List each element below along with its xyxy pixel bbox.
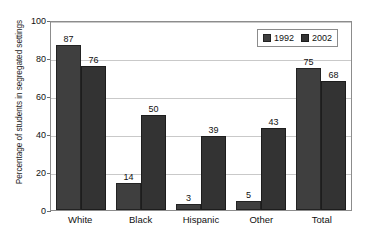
- x-axis-label-total: Total: [292, 214, 352, 225]
- bar-chart-figure: Percentage of students in segregated set…: [0, 0, 367, 247]
- plot-area: 877614503395437568: [50, 21, 352, 211]
- bar-group-other: 543: [236, 22, 286, 210]
- bar-value-label: 5: [246, 190, 251, 200]
- bar-value-label: 50: [148, 104, 158, 114]
- bar-rect[interactable]: [296, 68, 321, 211]
- bar-value-label: 39: [208, 125, 218, 135]
- bar-rect[interactable]: [261, 128, 286, 210]
- bar-value-label: 76: [88, 55, 98, 65]
- bar-black-2002[interactable]: 50: [141, 22, 166, 210]
- bar-rect[interactable]: [81, 66, 106, 210]
- y-axis-tick-label: 20: [0, 168, 46, 178]
- bar-total-1992[interactable]: 75: [296, 22, 321, 210]
- bar-value-label: 87: [63, 34, 73, 44]
- bar-value-label: 43: [268, 117, 278, 127]
- bar-rect[interactable]: [201, 136, 226, 210]
- bar-value-label: 14: [123, 172, 133, 182]
- bar-value-label: 3: [186, 193, 191, 203]
- bar-other-1992[interactable]: 5: [236, 22, 261, 210]
- bar-hispanic-2002[interactable]: 39: [201, 22, 226, 210]
- bar-value-label: 68: [328, 70, 338, 80]
- legend-entry-2002[interactable]: 2002: [301, 33, 332, 43]
- y-axis-tick-label: 100: [0, 16, 46, 26]
- legend-swatch-icon: [301, 34, 309, 42]
- bar-black-1992[interactable]: 14: [116, 22, 141, 210]
- bar-rect[interactable]: [56, 45, 81, 210]
- y-axis-tick-label: 60: [0, 92, 46, 102]
- bar-rect[interactable]: [141, 115, 166, 210]
- x-axis-labels: WhiteBlackHispanicOtherTotal: [50, 214, 352, 225]
- y-axis-tick-label: 0: [0, 206, 46, 216]
- bar-rect[interactable]: [321, 81, 346, 210]
- y-axis-tick-label: 80: [0, 54, 46, 64]
- legend-label: 1992: [274, 33, 294, 43]
- x-axis-label-other: Other: [231, 214, 291, 225]
- bar-value-label: 75: [303, 57, 313, 67]
- bar-rect[interactable]: [236, 201, 261, 211]
- bar-group-black: 1450: [116, 22, 166, 210]
- bar-hispanic-1992[interactable]: 3: [176, 22, 201, 210]
- legend-swatch-icon: [263, 34, 271, 42]
- bar-rect[interactable]: [116, 183, 141, 210]
- bar-other-2002[interactable]: 43: [261, 22, 286, 210]
- legend-label: 2002: [312, 33, 332, 43]
- bar-white-1992[interactable]: 87: [56, 22, 81, 210]
- legend-entry-1992[interactable]: 1992: [263, 33, 294, 43]
- bar-group-total: 7568: [296, 22, 346, 210]
- bar-rect[interactable]: [176, 204, 201, 210]
- x-axis-label-white: White: [50, 214, 110, 225]
- bar-total-2002[interactable]: 68: [321, 22, 346, 210]
- y-axis-tick-mark: [47, 211, 51, 212]
- x-axis-label-hispanic: Hispanic: [171, 214, 231, 225]
- bar-group-white: 8776: [56, 22, 106, 210]
- y-axis-tick-label: 40: [0, 130, 46, 140]
- bar-group-hispanic: 339: [176, 22, 226, 210]
- x-axis-label-black: Black: [111, 214, 171, 225]
- bar-groups: 877614503395437568: [51, 22, 351, 210]
- bar-white-2002[interactable]: 76: [81, 22, 106, 210]
- chart-legend: 19922002: [257, 29, 338, 47]
